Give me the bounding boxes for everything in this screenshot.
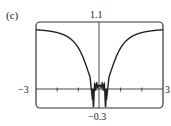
- x-ticks: [57, 88, 142, 92]
- function-curve: [36, 30, 163, 107]
- viewing-window-frame: [36, 22, 163, 108]
- plot-area: [0, 0, 171, 126]
